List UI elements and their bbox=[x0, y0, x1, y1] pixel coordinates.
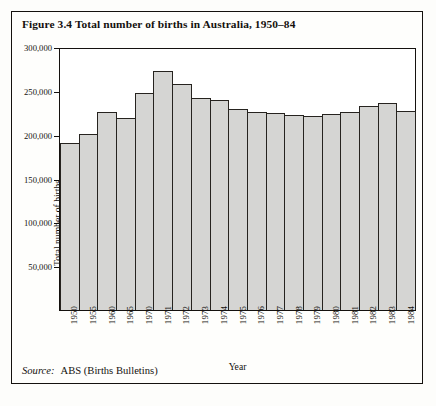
y-tick-mark bbox=[54, 223, 59, 224]
x-tick-1984: 1984 bbox=[396, 311, 415, 357]
x-tick-1979: 1979 bbox=[303, 311, 322, 357]
bar-1965 bbox=[116, 118, 136, 310]
y-tick-mark bbox=[54, 267, 59, 268]
bar-1950 bbox=[60, 143, 80, 310]
bar-1977 bbox=[266, 113, 286, 310]
y-tick-label: 250,000 bbox=[24, 87, 52, 97]
bar-1972 bbox=[172, 84, 192, 310]
x-tick-1950: 1950 bbox=[60, 311, 79, 357]
figure-box: Figure 3.4 Total number of births in Aus… bbox=[11, 11, 423, 384]
bar-1955 bbox=[79, 134, 99, 310]
x-tick-1980: 1980 bbox=[322, 311, 341, 357]
bar-1978 bbox=[284, 115, 304, 310]
x-tick-1982: 1982 bbox=[359, 311, 378, 357]
x-tick-1983: 1983 bbox=[378, 311, 397, 357]
figure-title: Figure 3.4 Total number of births in Aus… bbox=[22, 18, 295, 30]
bar-1974 bbox=[210, 100, 230, 310]
source-text: ABS (Births Bulletins) bbox=[61, 365, 158, 376]
source-note: Source:ABS (Births Bulletins) bbox=[22, 365, 158, 376]
bar-1970 bbox=[135, 93, 155, 311]
x-tick-1975: 1975 bbox=[228, 311, 247, 357]
x-tick-label: 1984 bbox=[406, 306, 416, 324]
bar-1973 bbox=[191, 98, 211, 310]
y-tick-label: 300,000 bbox=[24, 43, 52, 53]
bar-1981 bbox=[340, 112, 360, 310]
x-tick-1970: 1970 bbox=[135, 311, 154, 357]
bar-series bbox=[60, 49, 415, 310]
bar-1971 bbox=[153, 71, 173, 310]
x-tick-1977: 1977 bbox=[266, 311, 285, 357]
bar-1979 bbox=[303, 116, 323, 310]
bar-1960 bbox=[97, 112, 117, 310]
x-tick-1965: 1965 bbox=[116, 311, 135, 357]
x-tick-1972: 1972 bbox=[172, 311, 191, 357]
y-tick-label: 50,000 bbox=[28, 262, 52, 272]
y-tick-mark bbox=[54, 136, 59, 137]
x-tick-1971: 1971 bbox=[153, 311, 172, 357]
bar-1984 bbox=[396, 111, 416, 310]
y-tick-label: 100,000 bbox=[24, 218, 52, 228]
y-tick-label: 150,000 bbox=[24, 175, 52, 185]
x-tick-1955: 1955 bbox=[79, 311, 98, 357]
figure-page: Figure 3.4 Total number of births in Aus… bbox=[0, 0, 436, 406]
x-tick-1960: 1960 bbox=[97, 311, 116, 357]
x-tick-1978: 1978 bbox=[284, 311, 303, 357]
y-tick-mark bbox=[54, 48, 59, 49]
bar-1983 bbox=[378, 103, 398, 310]
x-axis-labels: 1950195519601965197019711972197319741975… bbox=[60, 311, 415, 357]
y-tick-mark bbox=[54, 180, 59, 181]
x-tick-1981: 1981 bbox=[340, 311, 359, 357]
y-tick-mark bbox=[54, 92, 59, 93]
x-tick-1973: 1973 bbox=[191, 311, 210, 357]
source-label: Source: bbox=[22, 365, 55, 376]
bar-1982 bbox=[359, 106, 379, 310]
bar-1976 bbox=[247, 112, 267, 310]
x-tick-1976: 1976 bbox=[247, 311, 266, 357]
y-tick-label: 200,000 bbox=[24, 131, 52, 141]
x-tick-1974: 1974 bbox=[210, 311, 229, 357]
bar-1980 bbox=[322, 114, 342, 310]
bar-1975 bbox=[228, 109, 248, 310]
bar-chart: Total number of births 300,000250,000200… bbox=[59, 48, 416, 311]
